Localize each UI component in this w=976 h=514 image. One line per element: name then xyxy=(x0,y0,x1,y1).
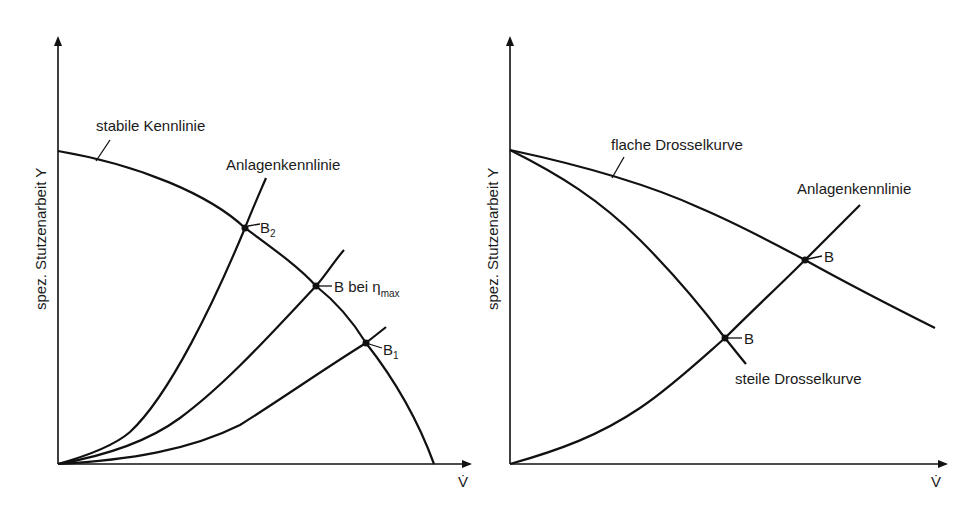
leader-flat xyxy=(612,157,624,178)
left-y-axis-label: spez. Stutzenarbeit Y xyxy=(32,168,49,310)
right-diagram: flache Drosselkurve Anlagenkennlinie B B… xyxy=(484,38,946,490)
stable-pump-curve xyxy=(58,151,434,464)
steep-throttle-curve xyxy=(510,150,746,364)
point-b-steep xyxy=(722,335,729,342)
label-b-eta-max: B bei ηmax xyxy=(334,278,400,299)
right-y-axis-label: spez. Stutzenarbeit Y xyxy=(484,168,501,310)
label-system-curve-right: Anlagenkennlinie xyxy=(797,180,911,197)
left-diagram: stabile Kennlinie Anlagenkennlinie B2 B … xyxy=(32,38,470,490)
label-b-steep: B xyxy=(744,330,754,347)
label-steep-curve: steile Drosselkurve xyxy=(735,370,862,387)
label-b-flat: B xyxy=(824,248,834,265)
system-curve xyxy=(510,205,860,464)
tick-b1 xyxy=(369,344,382,348)
diagram-canvas: stabile Kennlinie Anlagenkennlinie B2 B … xyxy=(0,0,976,514)
label-system-curve: Anlagenkennlinie xyxy=(226,156,340,173)
point-b1 xyxy=(363,340,370,347)
label-b2: B2 xyxy=(260,219,276,239)
label-flat-curve: flache Drosselkurve xyxy=(611,136,743,153)
point-b-eta-max xyxy=(313,283,320,290)
system-curve-steep xyxy=(58,178,266,464)
tick-b2 xyxy=(248,224,260,226)
left-x-axis-label: V̇ xyxy=(458,473,468,490)
system-curve-medium xyxy=(58,250,344,464)
point-b2 xyxy=(242,225,249,232)
label-b1: B1 xyxy=(383,341,399,361)
point-b-flat xyxy=(802,257,809,264)
leader-stable xyxy=(96,140,110,161)
system-curve-flat xyxy=(58,327,386,464)
label-stable-curve: stabile Kennlinie xyxy=(96,117,205,134)
right-x-axis-label: V̇ xyxy=(931,473,941,490)
flat-throttle-curve xyxy=(510,150,935,328)
